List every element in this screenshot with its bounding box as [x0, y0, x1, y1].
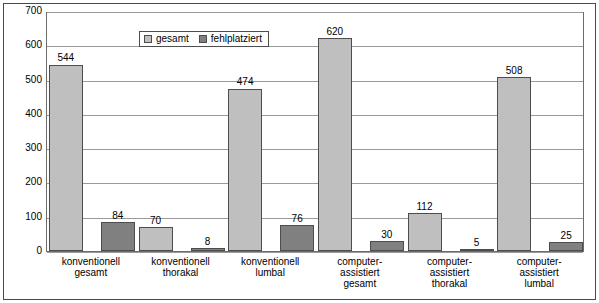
bar [460, 249, 494, 251]
bar-value-label: 30 [362, 229, 412, 240]
legend-label-fehlplatziert: fehlplatziert [211, 34, 262, 44]
bar-chart: 0100200300400500600700 54484708474766203… [0, 0, 599, 303]
x-axis-tick-label: konventionellgesamt [46, 256, 136, 278]
legend-label-gesamt: gesamt [156, 34, 189, 44]
y-axis: 0100200300400500600700 [8, 12, 42, 252]
bar [191, 248, 225, 251]
x-axis-tick-label: computer-assistiertlumbal [494, 256, 584, 289]
x-axis-tick-label: konventionellthorakal [136, 256, 226, 278]
bar-value-label: 25 [541, 230, 591, 241]
x-axis-tick-label: computer-assistiertthorakal [405, 256, 495, 289]
x-axis-tick-label: computer-assistiertgesamt [315, 256, 405, 289]
legend-item-gesamt: gesamt [144, 34, 189, 44]
legend-swatch-icon-fehlplatziert [199, 35, 207, 43]
bar-value-label: 70 [131, 215, 181, 226]
bar-value-label: 508 [489, 65, 539, 76]
y-axis-tick-label: 200 [25, 177, 42, 187]
bar-value-label: 112 [400, 201, 450, 212]
plot-area: 544847084747662030112550825 gesamt fehlp… [46, 12, 584, 252]
bar-value-label: 620 [310, 26, 360, 37]
bar [139, 227, 173, 251]
y-axis-tick-label: 700 [25, 6, 42, 16]
bar-value-label: 544 [41, 52, 91, 63]
legend: gesamt fehlplatziert [139, 31, 269, 47]
y-axis-tick-label: 100 [25, 212, 42, 222]
y-axis-tick-label: 300 [25, 143, 42, 153]
bar [370, 241, 404, 251]
bar [408, 213, 442, 251]
bar [549, 242, 583, 251]
legend-item-fehlplatziert: fehlplatziert [199, 34, 262, 44]
bar [280, 225, 314, 251]
bar [318, 38, 352, 251]
bars-layer: 544847084747662030112550825 [47, 13, 583, 251]
y-axis-tick-label: 0 [36, 246, 42, 256]
bar [101, 222, 135, 251]
y-axis-tick-label: 600 [25, 40, 42, 50]
x-axis-tick-label: konventionelllumbal [225, 256, 315, 278]
gridline [47, 252, 583, 253]
bar [497, 77, 531, 251]
bar-value-label: 76 [272, 213, 322, 224]
y-axis-tick-label: 500 [25, 75, 42, 85]
bar [49, 65, 83, 252]
bar-value-label: 474 [220, 76, 270, 87]
bar [228, 89, 262, 252]
bar-value-label: 5 [452, 237, 502, 248]
bar-value-label: 8 [183, 236, 233, 247]
x-axis: konventionellgesamtkonventionellthorakal… [46, 256, 584, 296]
legend-swatch-icon-gesamt [144, 35, 152, 43]
y-axis-tick-label: 400 [25, 109, 42, 119]
